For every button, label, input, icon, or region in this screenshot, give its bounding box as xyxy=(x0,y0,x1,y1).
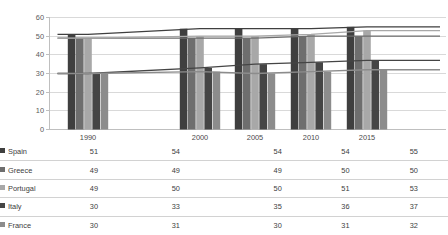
plot-region: 60 50 40 30 20 10 0 xyxy=(0,0,448,140)
table-cell: 50 xyxy=(380,161,448,179)
legend-swatch-icon xyxy=(0,167,5,172)
category-label: 2005 xyxy=(247,133,263,142)
table-row: Italy3033353637 xyxy=(0,198,448,216)
category-label: 2010 xyxy=(303,133,319,142)
bar xyxy=(355,36,363,129)
legend-swatch-icon xyxy=(0,222,5,227)
legend-series-label: Spain xyxy=(8,147,27,156)
table-cell: 30 xyxy=(244,216,311,234)
y-tick-label: 0 xyxy=(40,125,44,134)
table-cell: 49 xyxy=(107,161,244,179)
table-cell: 54 xyxy=(107,143,244,161)
table-cell: 49 xyxy=(81,179,108,197)
bar xyxy=(204,68,212,130)
legend-swatch-icon xyxy=(0,203,5,208)
table-cell: 30 xyxy=(81,198,108,216)
table-cell: 31 xyxy=(311,216,379,234)
table-cell: 32 xyxy=(380,216,448,234)
bar xyxy=(180,29,188,130)
table-cell: 33 xyxy=(107,198,244,216)
y-tick-label: 50 xyxy=(36,32,44,41)
bar xyxy=(324,72,332,130)
chart-data-table: Spain5154545455Greece4949495050Portugal4… xyxy=(0,143,448,234)
combo-chart-svg: 60 50 40 30 20 10 0 xyxy=(0,0,448,143)
bar xyxy=(76,38,84,129)
table-cell: 31 xyxy=(107,216,244,234)
table-row: Spain5154545455 xyxy=(0,143,448,161)
y-tick-label: 10 xyxy=(36,106,44,115)
table-cell: 49 xyxy=(244,161,311,179)
table-cell: 54 xyxy=(244,143,311,161)
legend-entry-spain: Spain xyxy=(0,143,81,161)
bar xyxy=(235,29,243,130)
table-cell: 50 xyxy=(107,179,244,197)
bar xyxy=(251,36,259,129)
table-cell: 37 xyxy=(380,198,448,216)
table-cell: 35 xyxy=(244,198,311,216)
bar xyxy=(315,62,323,129)
bar xyxy=(188,38,196,129)
table-cell: 49 xyxy=(81,161,108,179)
bar xyxy=(243,38,251,129)
bar xyxy=(371,60,379,129)
table-cell: 50 xyxy=(311,161,379,179)
bar xyxy=(84,38,92,129)
category-label: 1990 xyxy=(80,133,96,142)
chart-figure: 60 50 40 30 20 10 0 xyxy=(0,0,448,235)
legend-series-label: Italy xyxy=(8,202,22,211)
legend-swatch-icon xyxy=(0,185,5,190)
legend-series-label: Portugal xyxy=(8,184,36,193)
table-row: Portugal4950505153 xyxy=(0,179,448,197)
table-cell: 51 xyxy=(81,143,108,161)
y-tick-label: 60 xyxy=(36,13,44,22)
table-cell: 36 xyxy=(311,198,379,216)
y-tick-label: 30 xyxy=(36,69,44,78)
bar xyxy=(68,34,76,129)
table-row: Greece4949495050 xyxy=(0,161,448,179)
legend-entry-portugal: Portugal xyxy=(0,179,81,197)
legend-series-label: Greece xyxy=(8,166,32,175)
table-cell: 51 xyxy=(311,179,379,197)
legend-entry-france: France xyxy=(0,216,81,234)
category-label: 2015 xyxy=(359,133,375,142)
table-cell: 50 xyxy=(244,179,311,197)
legend-swatch-icon xyxy=(0,148,5,153)
legend-entry-italy: Italy xyxy=(0,198,81,216)
category-axis-labels: 19902000200520102015 xyxy=(80,133,375,142)
table-cell: 55 xyxy=(380,143,448,161)
table-row: France3031303132 xyxy=(0,216,448,234)
bar xyxy=(299,36,307,129)
bars-layer xyxy=(68,27,387,130)
y-tick-label: 20 xyxy=(36,88,44,97)
legend-series-label: France xyxy=(8,221,31,230)
bar xyxy=(268,74,276,130)
bar xyxy=(196,36,204,129)
bar xyxy=(347,27,355,130)
y-tick-label: 40 xyxy=(36,50,44,59)
bar xyxy=(291,29,299,130)
bar xyxy=(213,72,221,130)
bar xyxy=(380,70,388,130)
bar xyxy=(259,64,267,129)
line-series-portugal xyxy=(58,31,441,38)
bar xyxy=(307,34,315,129)
category-label: 2000 xyxy=(192,133,208,142)
legend-entry-greece: Greece xyxy=(0,161,81,179)
bar xyxy=(92,74,100,130)
table-cell: 30 xyxy=(81,216,108,234)
bar xyxy=(101,74,109,130)
y-axis-tick-labels: 60 50 40 30 20 10 0 xyxy=(36,13,44,134)
table-cell: 54 xyxy=(311,143,379,161)
y-axis-ticks xyxy=(46,18,50,130)
table-cell: 53 xyxy=(380,179,448,197)
bar xyxy=(363,31,371,130)
